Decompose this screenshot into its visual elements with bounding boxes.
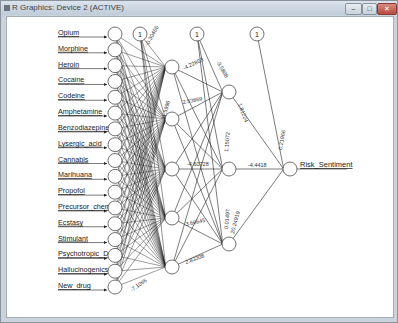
hidden1-node: [165, 162, 179, 176]
weight-label: 1.15072: [223, 132, 231, 152]
input-node: [108, 106, 122, 120]
input-labels: OpiumMorphineHeroinCocaineCodeineAmpheta…: [58, 28, 111, 292]
input-label-new_drug: New_drug: [58, 281, 107, 292]
svg-text:Hallucinogenics: Hallucinogenics: [58, 265, 109, 274]
output-label: Risk_Sentiment: [300, 160, 353, 169]
svg-text:Cannabis: Cannabis: [58, 155, 89, 164]
neural-network-diagram: OpiumMorphineHeroinCocaineCodeineAmpheta…: [7, 17, 393, 317]
input-label-benzodiazepine: Benzodiazepine: [58, 123, 109, 134]
svg-text:Morphine: Morphine: [58, 44, 88, 53]
weight-label: 1.81224: [237, 102, 249, 123]
input-node: [108, 169, 122, 183]
weight-label: 20.24919: [229, 211, 241, 235]
svg-text:Heroin: Heroin: [58, 60, 79, 69]
input-node: [108, 217, 122, 231]
input-label-psychotropic_d: Psychotropic_D: [58, 249, 108, 260]
input-label-ecstasy: Ecstasy: [58, 218, 107, 229]
bias-label: 1: [195, 31, 199, 38]
svg-text:Psychotropic_D: Psychotropic_D: [58, 249, 108, 258]
hidden1-node: [165, 260, 179, 274]
hidden2-node: [222, 237, 236, 251]
input-label-hallucinogenics: Hallucinogenics: [58, 265, 109, 276]
input-node: [108, 43, 122, 57]
input-node: [108, 201, 122, 215]
svg-text:Amphetamine: Amphetamine: [58, 107, 102, 116]
svg-text:Propofol: Propofol: [58, 186, 85, 195]
input-node: [108, 185, 122, 199]
input-label-cannabis: Cannabis: [58, 155, 107, 166]
input-node: [108, 59, 122, 73]
svg-text:Marihuana: Marihuana: [58, 170, 92, 179]
input-label-precursor_chem: Precursor_chem: [58, 202, 111, 213]
input-node: [108, 280, 122, 294]
svg-text:Precursor_chem: Precursor_chem: [58, 202, 111, 211]
hidden1-node: [165, 60, 179, 74]
weight-label: -7.1066: [129, 277, 148, 293]
input-node: [108, 122, 122, 136]
bias-label: 1: [255, 31, 259, 38]
input-label-marihuana: Marihuana: [58, 170, 107, 181]
hidden2-node: [222, 85, 236, 99]
input-label-morphine: Morphine: [58, 44, 107, 55]
input-label-amphetamine: Amphetamine: [58, 107, 107, 118]
hidden1-node: [165, 211, 179, 225]
plot-canvas: OpiumMorphineHeroinCocaineCodeineAmpheta…: [6, 16, 394, 318]
weight-label: -4.4418: [248, 162, 267, 168]
bias-label: 1: [138, 31, 142, 38]
svg-text:New_drug: New_drug: [58, 281, 91, 290]
input-label-opium: Opium: [58, 28, 107, 39]
weight-label: -4.60728: [187, 161, 209, 167]
input-node: [108, 27, 122, 41]
input-label-codeine: Codeine: [58, 91, 107, 102]
weight-label: 0.21966: [277, 130, 286, 151]
weight-label: 2.53869: [182, 96, 203, 105]
input-label-cocaine: Cocaine: [58, 75, 107, 86]
input-label-heroin: Heroin: [58, 60, 107, 71]
svg-text:Codeine: Codeine: [58, 91, 85, 100]
svg-text:Opium: Opium: [58, 28, 79, 37]
minimize-button[interactable]: –: [345, 3, 362, 15]
maximize-button[interactable]: □: [362, 3, 377, 15]
weight-label: -3.5808: [215, 60, 230, 79]
title-bar[interactable]: R Graphics: Device 2 (ACTIVE) – □ ✕: [1, 1, 397, 15]
input-label-stimulant: Stimulant: [58, 234, 107, 245]
input-node: [108, 138, 122, 152]
r-graphics-window: R Graphics: Device 2 (ACTIVE) – □ ✕ Opiu…: [0, 0, 398, 323]
input-node: [108, 233, 122, 247]
input-node: [108, 248, 122, 262]
r-app-icon: [4, 5, 10, 11]
svg-text:Benzodiazepine: Benzodiazepine: [58, 123, 109, 132]
input-node: [108, 74, 122, 88]
input-node: [108, 154, 122, 168]
svg-text:Lysergic_acid: Lysergic_acid: [58, 139, 102, 148]
hidden2-node: [222, 162, 236, 176]
output-node: [283, 162, 297, 176]
svg-text:Stimulant: Stimulant: [58, 234, 88, 243]
weight-label: 2.83308: [184, 252, 205, 264]
weight-label: 3.66645: [185, 217, 206, 227]
input-label-propofol: Propofol: [58, 186, 107, 197]
weight-label: 0.01497: [223, 209, 231, 229]
input-node: [108, 90, 122, 104]
input-label-lysergic_acid: Lysergic_acid: [58, 139, 107, 150]
input-node: [108, 264, 122, 278]
svg-text:Cocaine: Cocaine: [58, 75, 84, 84]
close-button[interactable]: ✕: [377, 3, 397, 15]
window-title: R Graphics: Device 2 (ACTIVE): [12, 3, 124, 12]
svg-text:Ecstasy: Ecstasy: [58, 218, 84, 227]
